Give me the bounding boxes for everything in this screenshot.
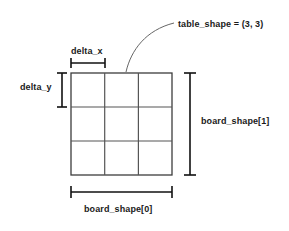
- board-shape-1-bracket: [184, 73, 196, 175]
- table-shape-label: table_shape = (3, 3): [178, 19, 263, 29]
- delta-y-label: delta_y: [20, 82, 52, 92]
- table-shape-leader-line: [126, 23, 174, 72]
- board-shape-0-bracket: [71, 186, 172, 198]
- grid-group: [71, 73, 172, 175]
- diagram-canvas: table_shape = (3, 3) delta_x delta_y boa…: [0, 0, 289, 231]
- delta-y-bracket: [57, 73, 67, 107]
- board-shape-1-label: board_shape[1]: [201, 116, 269, 126]
- grid-outer-border: [71, 73, 172, 175]
- board-shape-0-label: board_shape[0]: [84, 204, 152, 214]
- delta-x-label: delta_x: [71, 46, 103, 56]
- delta-x-bracket: [71, 58, 105, 68]
